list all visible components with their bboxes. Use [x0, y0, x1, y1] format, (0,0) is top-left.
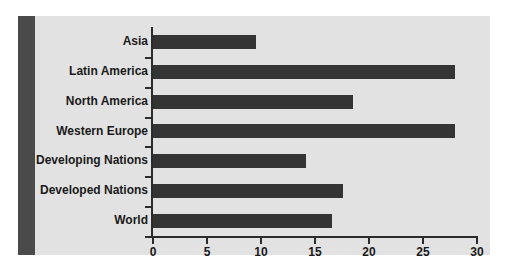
y-axis-tick [145, 87, 152, 89]
x-axis-tick [422, 238, 424, 244]
bar [153, 214, 332, 228]
x-axis-tick-label: 25 [403, 245, 443, 259]
bar [153, 65, 455, 79]
x-axis-tick [314, 238, 316, 244]
bar-row: Western Europe [0, 117, 512, 147]
bar-row: North America [0, 87, 512, 117]
bar-row: Developed Nations [0, 176, 512, 206]
y-axis-tick [145, 146, 152, 148]
bar [153, 124, 455, 138]
bar-row: Asia [0, 27, 512, 57]
bar-category-label: World [114, 206, 148, 236]
x-axis-tick-label: 0 [133, 245, 173, 259]
bar-category-label: Latin America [69, 57, 148, 87]
bar-chart-figure: AsiaLatin AmericaNorth AmericaWestern Eu… [0, 0, 512, 273]
bar-category-label: Developed Nations [40, 176, 148, 206]
x-axis-tick-label: 20 [349, 245, 389, 259]
bar [153, 95, 353, 109]
x-axis-tick [368, 238, 370, 244]
y-axis-tick [145, 236, 152, 238]
x-axis-tick [260, 238, 262, 244]
x-axis-tick-label: 5 [187, 245, 227, 259]
x-axis-tick-label: 15 [295, 245, 335, 259]
bar-category-label: Asia [123, 27, 148, 57]
x-axis-tick [206, 238, 208, 244]
x-axis-tick [152, 238, 154, 244]
bar-category-label: Western Europe [56, 117, 148, 147]
bar-row: Developing Nations [0, 146, 512, 176]
bar-category-label: North America [66, 87, 148, 117]
bar [153, 184, 343, 198]
y-axis-tick [145, 57, 152, 59]
x-axis-tick [476, 238, 478, 244]
plot-area: AsiaLatin AmericaNorth AmericaWestern Eu… [0, 0, 512, 273]
x-axis-tick-label: 10 [241, 245, 281, 259]
bar-row: World [0, 206, 512, 236]
y-axis-tick [145, 117, 152, 119]
bar [153, 35, 256, 49]
bar-row: Latin America [0, 57, 512, 87]
y-axis-tick [145, 206, 152, 208]
x-axis-tick-label: 30 [457, 245, 497, 259]
bar-category-label: Developing Nations [36, 146, 148, 176]
bar [153, 154, 306, 168]
y-axis-tick [145, 176, 152, 178]
